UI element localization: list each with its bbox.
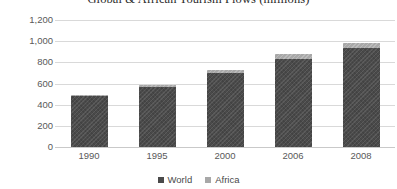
y-axis-tick-label: 200 (7, 121, 53, 131)
x-axis-tick-label: 2008 (331, 150, 391, 161)
x-axis-tick-label: 1995 (127, 150, 187, 161)
legend-swatch-icon (158, 177, 164, 183)
gridline (55, 20, 395, 21)
y-axis-tick-label: 600 (7, 79, 53, 89)
y-axis-tick-label: 800 (7, 57, 53, 67)
bar-segment-world[interactable] (343, 48, 380, 147)
legend-item-africa[interactable]: Africa (205, 175, 239, 185)
x-axis-tick-label: 1990 (59, 150, 119, 161)
legend-swatch-icon (205, 177, 211, 183)
chart-title: Global & African Tourism Flows (millions… (0, 0, 397, 6)
plot-area (55, 20, 395, 147)
bar-group[interactable] (275, 54, 312, 147)
x-axis-tick-label: 2000 (195, 150, 255, 161)
bar-segment-world[interactable] (71, 96, 108, 147)
bar-group[interactable] (207, 70, 244, 147)
x-axis-tick-label: 2006 (263, 150, 323, 161)
legend-label: World (168, 175, 193, 185)
y-axis-tick-label: 400 (7, 100, 53, 110)
y-axis-tick-label: 0 (7, 142, 53, 152)
bar-segment-world[interactable] (139, 87, 176, 147)
bar-segment-world[interactable] (275, 59, 312, 147)
gridline (55, 147, 395, 148)
chart-container: Global & African Tourism Flows (millions… (0, 0, 397, 189)
bar-group[interactable] (139, 85, 176, 147)
legend-label: Africa (215, 175, 239, 185)
bar-segment-world[interactable] (207, 73, 244, 147)
legend-item-world[interactable]: World (158, 175, 193, 185)
bar-group[interactable] (71, 95, 108, 147)
y-axis-tick-label: 1,000 (7, 36, 53, 46)
chart-legend: WorldAfrica (0, 175, 397, 185)
y-axis-tick-label: 1,200 (7, 15, 53, 25)
bar-group[interactable] (343, 43, 380, 147)
